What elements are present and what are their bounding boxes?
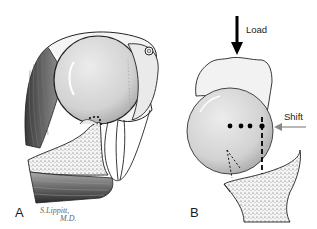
shift-arrow-head [274,123,282,131]
load-label: Load [246,24,267,35]
lower-muscle [30,172,113,203]
humeral-head-b [187,88,273,174]
signature-line2: M.D. [40,215,76,223]
shoulder-figure [0,0,317,229]
panel-b-label: B [190,205,199,220]
artist-signature: S.Lippitt, M.D. [40,207,76,223]
humeral-head-a [54,36,142,124]
panel-a-label: A [15,205,24,220]
capsule [105,122,112,178]
load-arrow-head [231,42,243,55]
shift-label: Shift [284,111,303,122]
panel-a [25,32,158,203]
